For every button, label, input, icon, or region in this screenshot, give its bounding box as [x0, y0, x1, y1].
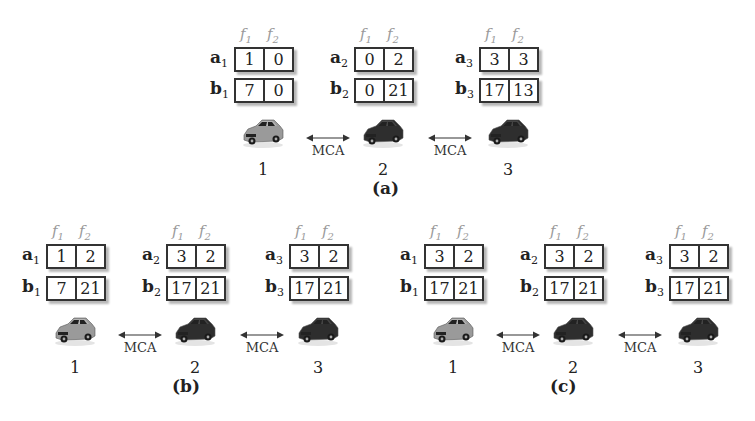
vector-a-label: a1 — [22, 244, 40, 267]
vector-a: 1 2 — [46, 244, 106, 269]
vector-a-f1-value: 3 — [426, 246, 453, 267]
vehicle-dark-icon — [550, 313, 596, 347]
vector-b-f2-value: 21 — [75, 278, 104, 299]
mca-label: MCA — [312, 143, 345, 158]
vehicle-index: 2 — [190, 358, 200, 377]
vector-a-f2-value: 2 — [573, 246, 602, 267]
vector-a: 3 2 — [544, 244, 604, 269]
vehicle-index: 1 — [258, 160, 268, 179]
vehicle-index: 3 — [503, 160, 513, 179]
feature-header-f2: f2 — [267, 25, 279, 45]
vector-b-f1-value: 0 — [356, 80, 383, 101]
vector-b: 7 0 — [234, 78, 294, 103]
vehicle-dark-icon — [172, 313, 218, 347]
feature-header-f2: f2 — [512, 25, 524, 45]
feature-header-f1: f1 — [295, 222, 307, 242]
vehicle-index: 3 — [693, 358, 703, 377]
bidirectional-arrow-icon — [110, 325, 170, 337]
vector-b-f1-value: 17 — [426, 278, 453, 299]
vector-b-label: b2 — [330, 78, 349, 101]
vector-a-label: a2 — [142, 244, 160, 267]
vector-b: 0 21 — [354, 78, 414, 103]
vector-b-label: b1 — [400, 276, 419, 299]
vehicle-index: 3 — [313, 358, 323, 377]
mca-label: MCA — [502, 340, 535, 355]
vector-b-label: b3 — [455, 78, 474, 101]
vector-b-f2-value: 21 — [195, 278, 224, 299]
vector-a-f1-value: 3 — [546, 246, 573, 267]
vehicle-dark-icon — [675, 313, 721, 347]
vector-b-f1-value: 7 — [236, 80, 263, 101]
vector-b: 17 21 — [424, 276, 484, 301]
feature-header-f1: f1 — [430, 222, 442, 242]
vector-a-f1-value: 3 — [168, 246, 195, 267]
vector-b-label: b1 — [22, 276, 41, 299]
mca-link: MCA — [610, 325, 670, 356]
vector-b-f2-value: 21 — [698, 278, 727, 299]
vector-a: 1 0 — [234, 47, 294, 72]
mca-label: MCA — [624, 340, 657, 355]
vector-b: 7 21 — [46, 276, 106, 301]
vehicle-index: 2 — [378, 160, 388, 179]
vector-b-f1-value: 7 — [48, 278, 75, 299]
vector-b-f1-value: 17 — [671, 278, 698, 299]
vector-a-f1-value: 1 — [236, 49, 263, 70]
vector-a-f2-value: 2 — [453, 246, 482, 267]
vector-b-f2-value: 13 — [508, 80, 537, 101]
vector-a-f2-value: 0 — [263, 49, 292, 70]
vector-a: 3 2 — [424, 244, 484, 269]
vector-a-f2-value: 2 — [698, 246, 727, 267]
vehicle-light-icon — [240, 115, 286, 149]
bidirectional-arrow-icon — [298, 128, 358, 140]
vector-a-f2-value: 3 — [508, 49, 537, 70]
feature-header-f1: f1 — [240, 25, 252, 45]
vector-b-f2-value: 21 — [573, 278, 602, 299]
vehicle-dark-icon — [485, 115, 531, 149]
bidirectional-arrow-icon — [232, 325, 292, 337]
vector-b-f1-value: 17 — [168, 278, 195, 299]
bidirectional-arrow-icon — [420, 128, 480, 140]
vector-a-f2-value: 2 — [75, 246, 104, 267]
vector-b-f2-value: 21 — [383, 80, 412, 101]
vector-a-label: a2 — [330, 47, 348, 70]
vector-a: 3 2 — [166, 244, 226, 269]
feature-header-f1: f1 — [172, 222, 184, 242]
feature-header-f1: f1 — [550, 222, 562, 242]
vector-b-label: b1 — [210, 78, 229, 101]
vector-b: 17 21 — [669, 276, 729, 301]
vector-b-f1-value: 17 — [481, 80, 508, 101]
vehicle-dark-icon — [295, 313, 341, 347]
vector-b-f2-value: 21 — [453, 278, 482, 299]
vector-a-label: a3 — [265, 244, 283, 267]
vector-b-label: b3 — [265, 276, 284, 299]
vehicle-light-icon — [430, 313, 476, 347]
feature-header-f2: f2 — [387, 25, 399, 45]
mca-link: MCA — [298, 128, 358, 159]
vehicle-light-icon — [52, 313, 98, 347]
vehicle-dark-icon — [360, 115, 406, 149]
feature-header-f1: f1 — [360, 25, 372, 45]
mca-link: MCA — [110, 325, 170, 356]
vector-b-label: b3 — [645, 276, 664, 299]
vehicle-index: 2 — [568, 358, 578, 377]
vector-a-f1-value: 0 — [356, 49, 383, 70]
feature-header-f2: f2 — [457, 222, 469, 242]
feature-header-f1: f1 — [675, 222, 687, 242]
vector-a-label: a2 — [520, 244, 538, 267]
vector-a-label: a3 — [645, 244, 663, 267]
vector-a-f1-value: 3 — [481, 49, 508, 70]
vector-a: 3 3 — [479, 47, 539, 72]
vector-a: 0 2 — [354, 47, 414, 72]
vector-a-f2-value: 2 — [318, 246, 347, 267]
vector-a-label: a1 — [400, 244, 418, 267]
feature-header-f2: f2 — [199, 222, 211, 242]
vector-a-f1-value: 3 — [671, 246, 698, 267]
vector-b-f2-value: 21 — [318, 278, 347, 299]
vector-b: 17 13 — [479, 78, 539, 103]
mca-label: MCA — [246, 340, 279, 355]
feature-header-f2: f2 — [577, 222, 589, 242]
vector-b-f2-value: 0 — [263, 80, 292, 101]
vector-b: 17 21 — [289, 276, 349, 301]
panel-caption: (a) — [372, 178, 399, 198]
mca-link: MCA — [488, 325, 548, 356]
